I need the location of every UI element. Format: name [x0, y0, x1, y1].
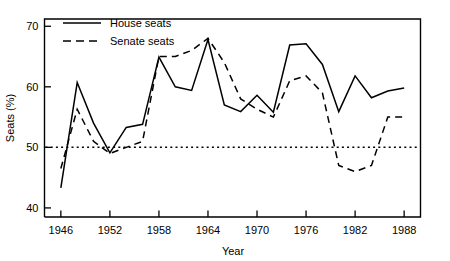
y-tick-label: 50	[26, 141, 38, 153]
legend-label-senate-seats: Senate seats	[110, 35, 175, 47]
chart-container: 40506070 1946195219581964197019761982198…	[0, 0, 450, 261]
x-tick-label: 1970	[245, 224, 269, 236]
x-tick-label: 1964	[196, 224, 220, 236]
y-tick-label: 40	[26, 202, 38, 214]
seats-percent-line-chart: 40506070 1946195219581964197019761982198…	[0, 0, 450, 261]
x-axis-title: Year	[222, 245, 245, 257]
y-tick-label: 70	[26, 20, 38, 32]
y-tick-label: 60	[26, 81, 38, 93]
x-tick-label: 1982	[343, 224, 367, 236]
x-tick-label: 1988	[392, 224, 416, 236]
x-tick-label: 1952	[98, 224, 122, 236]
legend-label-house-seats: House seats	[110, 17, 172, 29]
x-tick-label: 1946	[49, 224, 73, 236]
x-tick-label: 1976	[294, 224, 318, 236]
x-tick-label: 1958	[147, 224, 171, 236]
y-axis-title: Seats (%)	[4, 94, 16, 142]
